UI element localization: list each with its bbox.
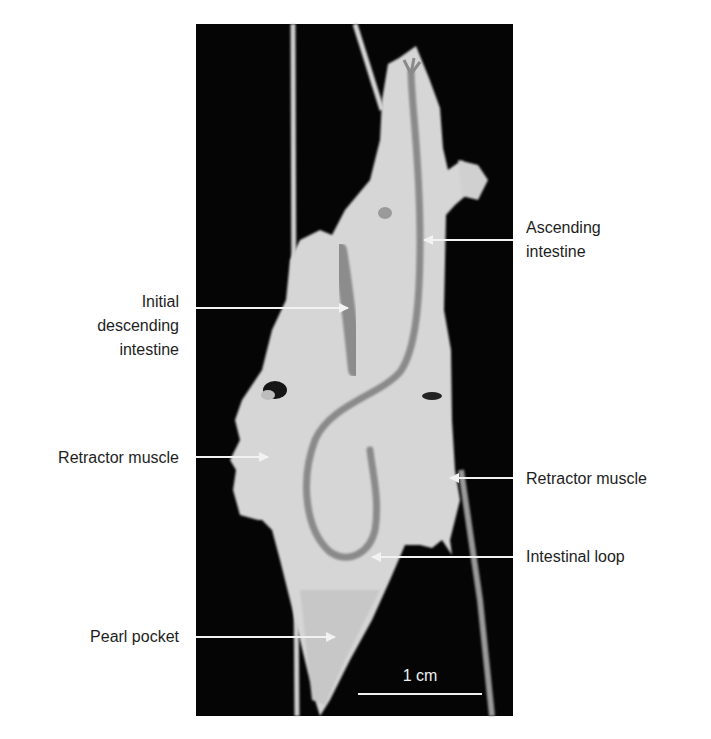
label-initial-descending-intestine: Initial descending intestine [60, 290, 179, 362]
label-intestinal-loop: Intestinal loop [526, 545, 625, 569]
label-ascending-intestine: Ascending intestine [526, 216, 601, 264]
label-retractor-muscle-left: Retractor muscle [20, 446, 179, 470]
scale-bar-label: 1 cm [358, 664, 482, 688]
label-pearl-pocket: Pearl pocket [40, 625, 179, 649]
label-retractor-muscle-right: Retractor muscle [526, 467, 647, 491]
